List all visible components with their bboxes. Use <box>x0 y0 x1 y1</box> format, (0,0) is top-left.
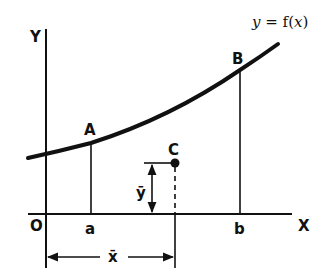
bound-label-b: b <box>234 220 245 238</box>
x-axis-label: X <box>298 217 310 235</box>
point-label-b: B <box>232 50 243 68</box>
point-label-a: A <box>84 121 96 139</box>
bound-label-a: a <box>85 220 95 238</box>
x-bar-label: x̄ <box>108 248 118 266</box>
curve-equation-label: y = f(x) <box>251 13 308 31</box>
point-label-c: C <box>168 141 179 159</box>
eq-mid: = f( <box>260 13 294 31</box>
y-axis-label: Y <box>29 28 42 46</box>
origin-label: O <box>30 217 43 235</box>
centroid-diagram: Y X O a b A B C ȳ x̄ y = f(x) <box>0 0 329 279</box>
eq-close: ) <box>302 13 308 31</box>
y-bar-label: ȳ <box>136 184 146 202</box>
centroid-point-c <box>171 159 180 168</box>
